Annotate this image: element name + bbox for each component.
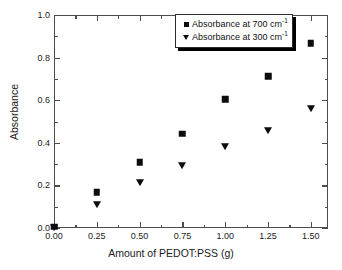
axis-tick [247,225,248,229]
axis-tick [140,15,141,21]
axis-tick [118,225,119,229]
axis-tick [54,143,60,144]
legend-label-700: Absorbance at 700 cm-1 [192,18,288,31]
data-point [221,143,229,150]
y-tick-label: 0.2 [37,180,50,190]
x-tick-label: 0.25 [88,231,106,241]
data-point [307,105,315,112]
axis-tick [325,122,329,123]
legend-item-300: Absorbance at 300 cm-1 [180,31,288,44]
data-point [222,96,229,103]
axis-tick [204,225,205,229]
absorbance-scatter-chart: 0.000.250.500.751.001.251.500.00.20.40.6… [0,0,342,270]
axis-tick [311,222,312,228]
x-tick-label: 1.00 [216,231,234,241]
square-marker-icon [180,22,192,27]
y-tick-label: 0.0 [37,223,50,233]
data-point [94,189,101,196]
axis-tick [182,222,183,228]
axis-tick [54,100,60,101]
axis-tick [97,222,98,228]
axis-tick [75,15,76,19]
axis-tick [322,15,328,16]
data-point [50,224,58,231]
y-tick-label: 0.8 [37,53,50,63]
axis-tick [311,15,312,21]
axis-tick [54,36,58,37]
axis-tick [161,15,162,19]
axis-tick [225,222,226,228]
legend-label-300: Absorbance at 300 cm-1 [192,31,288,44]
axis-tick [322,228,328,229]
axis-tick [54,207,58,208]
axis-tick [268,222,269,228]
axis-tick [54,79,58,80]
data-point [264,127,272,134]
axis-tick [118,15,119,19]
axis-tick [140,222,141,228]
axis-tick [97,15,98,21]
x-tick-label: 0.75 [174,231,192,241]
axis-tick [322,185,328,186]
x-tick-label: 1.25 [259,231,277,241]
triangle-marker-icon [180,35,192,40]
axis-tick [325,79,329,80]
axis-tick [75,225,76,229]
axis-tick [54,185,60,186]
axis-tick [322,58,328,59]
y-tick-label: 0.4 [37,138,50,148]
x-axis-title: Amount of PEDOT:PSS (g) [0,247,342,259]
axis-tick [54,15,60,16]
legend-item-700: Absorbance at 700 cm-1 [180,18,288,31]
chart-legend: Absorbance at 700 cm-1 Absorbance at 300… [175,14,293,48]
axis-tick [161,225,162,229]
axis-tick [54,58,60,59]
data-point [136,179,144,186]
y-tick-label: 1.0 [37,10,50,20]
axis-tick [54,122,58,123]
data-point [136,159,143,166]
axis-tick [325,207,329,208]
axis-tick [325,164,329,165]
data-point [179,131,186,138]
axis-tick [322,143,328,144]
x-tick-label: 1.50 [302,231,320,241]
axis-tick [325,36,329,37]
y-axis-title: Absorbance [8,52,20,172]
data-point [308,40,315,47]
y-tick-label: 0.6 [37,95,50,105]
axis-tick [54,164,58,165]
data-point [265,73,272,80]
axis-tick [322,100,328,101]
axis-tick [289,225,290,229]
data-point [178,162,186,169]
x-tick-label: 0.50 [131,231,149,241]
data-point [93,201,101,208]
